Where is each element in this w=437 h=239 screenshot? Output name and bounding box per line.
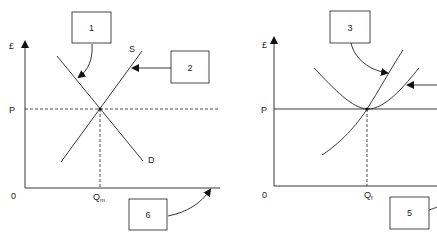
left-y-axis-label: £ — [9, 41, 14, 51]
average-cost-curve — [314, 68, 419, 109]
marginal-cost-curve — [322, 50, 403, 155]
left-origin-label: 0 — [11, 191, 16, 201]
right-origin-label: 0 — [262, 190, 267, 200]
equilibrium-point — [98, 107, 101, 110]
left-price-label: P — [9, 105, 15, 115]
economics-diagram: £ 0 P S D Qm 1 2 6 £ 0 P — [0, 0, 437, 239]
arrow-box-3 — [351, 43, 387, 73]
right-equilibrium-point — [365, 107, 368, 110]
arrow-box-5 — [429, 207, 437, 210]
right-firm-diagram: £ 0 P Qf 3 5 — [261, 11, 437, 229]
left-quantity-label: Qm — [93, 192, 105, 203]
right-quantity-label: Qf — [364, 190, 373, 201]
label-box-2-text: 2 — [187, 63, 192, 73]
arrow-box-6 — [168, 190, 210, 216]
left-market-diagram: £ 0 P S D Qm 1 2 6 — [9, 12, 220, 230]
right-price-label: P — [261, 105, 267, 115]
label-box-5-text: 5 — [407, 208, 412, 218]
label-box-1-text: 1 — [89, 23, 94, 33]
arrow-box-1 — [79, 44, 92, 77]
label-box-6-text: 6 — [145, 210, 150, 220]
label-box-3-text: 3 — [347, 23, 352, 33]
supply-label: S — [129, 44, 135, 54]
demand-label: D — [148, 155, 155, 165]
right-y-axis-label: £ — [262, 40, 267, 50]
